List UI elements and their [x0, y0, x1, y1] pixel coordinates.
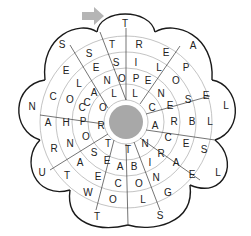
letter-cell: L — [132, 89, 138, 99]
letter-cell: R — [97, 121, 104, 131]
letter-cell: O — [118, 74, 126, 84]
letter-cell: L — [223, 101, 229, 111]
letter-cell: O — [66, 95, 74, 105]
letter-cell: N — [152, 173, 159, 183]
letter-cell: B — [131, 162, 138, 172]
letter-cell: E — [203, 91, 210, 101]
letter-cell: E — [93, 63, 100, 73]
letter-cell: O — [99, 103, 107, 113]
letter-cell: G — [164, 188, 172, 198]
letter-cell: L — [207, 117, 213, 127]
letter-cell: N — [28, 102, 35, 112]
letter-cell: E — [95, 172, 102, 182]
letter-cell: A — [45, 118, 52, 128]
letter-cell: T — [122, 19, 128, 29]
letter-cell: A — [117, 162, 124, 172]
letter-cell: N — [66, 139, 73, 149]
letter-cell: A — [173, 158, 180, 168]
letter-cell: T — [94, 212, 100, 222]
letter-cell: O — [172, 76, 180, 86]
letter-cell: L — [76, 79, 82, 89]
letter-cell: S — [157, 211, 164, 221]
letter-cell: E — [167, 101, 174, 111]
flower-puzzle-graphic — [0, 0, 251, 236]
letter-cell: E — [145, 76, 152, 86]
letter-cell: B — [189, 117, 196, 127]
letter-cell: T — [105, 139, 111, 149]
letter-cell: R — [157, 149, 164, 159]
letter-cell: O — [109, 195, 117, 205]
center-circle — [109, 105, 143, 139]
letter-cell: A — [77, 158, 84, 168]
letter-cell: N — [103, 76, 110, 86]
letter-cell: E — [189, 170, 196, 180]
letter-cell: E — [163, 48, 170, 58]
letter-cell: O — [82, 132, 90, 142]
letter-cell: S — [91, 148, 98, 158]
letter-cell: S — [113, 58, 120, 68]
letter-cell: H — [62, 118, 69, 128]
letter-cell: A — [91, 88, 98, 98]
letter-cell: A — [152, 121, 159, 131]
letter-cell: C — [49, 92, 56, 102]
letter-cell: T — [125, 145, 131, 155]
letter-cell: A — [190, 41, 197, 51]
letter-cell: E — [183, 139, 190, 149]
letter-cell: S — [201, 145, 208, 155]
letter-cell: P — [80, 117, 87, 127]
petal-lower-right — [190, 140, 227, 188]
letter-cell: L — [111, 89, 117, 99]
letter-cell: L — [140, 195, 146, 205]
letter-cell: S — [86, 49, 93, 59]
letter-cell: U — [38, 168, 45, 178]
letter-cell: S — [59, 40, 66, 50]
letter-cell: C — [114, 179, 121, 189]
letter-cell: R — [170, 117, 177, 127]
letter-cell: R — [50, 144, 57, 154]
letter-cell: S — [185, 95, 192, 105]
letter-cell: R — [135, 40, 142, 50]
letter-cell: P — [183, 63, 190, 73]
letter-cell: E — [104, 156, 111, 166]
letter-cell: E — [63, 66, 70, 76]
letter-cell: I — [135, 58, 138, 68]
letter-cell: C — [148, 103, 155, 113]
letter-cell: L — [156, 63, 162, 73]
letter-cell: P — [133, 74, 140, 84]
letter-cell: T — [109, 40, 115, 50]
letter-cell: W — [83, 188, 92, 198]
letter-cell: I — [149, 158, 152, 168]
letter-cell: N — [141, 139, 148, 149]
letter-cell: L — [215, 168, 221, 178]
letter-cell: C — [164, 133, 171, 143]
letter-cell: T — [64, 171, 70, 181]
letter-cell: C — [78, 103, 85, 113]
letter-cell: O — [135, 179, 143, 189]
letter-cell: N — [157, 89, 164, 99]
